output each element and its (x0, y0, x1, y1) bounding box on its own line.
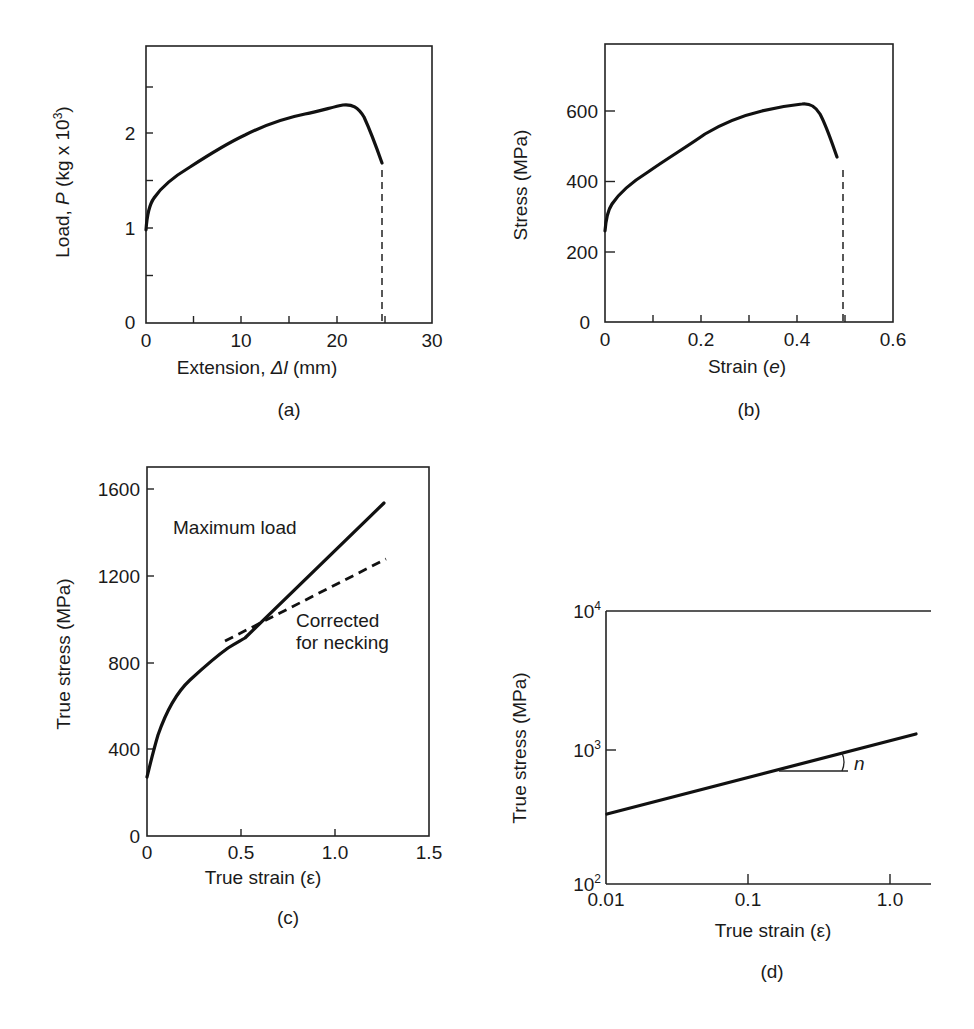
y-axis-label-a: Load, P (kg x 103) (51, 106, 73, 257)
panel-label-c: (c) (277, 907, 299, 928)
y-tick-label: 103 (573, 738, 601, 761)
x-axis-label-c: True strain (ε) (205, 867, 322, 888)
y-ticks-c (147, 489, 154, 749)
x-ticks-a (194, 316, 386, 323)
y-tick-label: 1 (125, 218, 136, 239)
x-tick-label: 0 (142, 842, 153, 863)
y-tick-label: 1200 (98, 566, 140, 587)
figure: 0 1 2 0 10 20 30 Extension, Δl (mm) Load… (0, 0, 974, 1029)
x-tick-label: 0.01 (588, 889, 625, 910)
x-tick-label: 10 (230, 330, 251, 351)
x-axis-label-b: Strain (e) (708, 356, 786, 377)
y-axis-label-c: True stress (MPa) (53, 578, 74, 729)
y-tick-label: 2 (125, 123, 136, 144)
y-tick-label: 0 (129, 826, 140, 847)
slope-triangle-arc (842, 753, 844, 771)
x-tick-label: 0.6 (880, 329, 906, 350)
stress-strain-curve (605, 104, 837, 231)
load-extension-curve (146, 105, 382, 230)
panel-b: 0 200 400 600 0 0.2 0.4 0.6 Strain (e) S… (510, 44, 906, 420)
y-ticks-a (146, 87, 153, 276)
panel-a: 0 1 2 0 10 20 30 Extension, Δl (mm) Load… (51, 46, 443, 420)
x-tick-label: 30 (421, 330, 442, 351)
annotation-maximum-load: Maximum load (173, 517, 297, 538)
y-tick-label: 1600 (98, 479, 140, 500)
x-ticks-c (241, 829, 335, 836)
y-axis-label-b: Stress (MPa) (510, 130, 531, 241)
annotation-corrected: Corrected (296, 610, 379, 631)
x-axis-label-d: True strain (ε) (715, 920, 832, 941)
panel-d: 102 103 104 0.01 0.1 1.0 n True strain (… (509, 599, 931, 982)
y-tick-label: 400 (108, 739, 140, 760)
y-axis-label-d: True stress (MPa) (509, 672, 530, 823)
y-tick-label: 800 (108, 653, 140, 674)
y-tick-label: 600 (566, 101, 598, 122)
panel-label-a: (a) (277, 399, 300, 420)
panel-c: 0 400 800 1200 1600 0 0.5 1.0 1.5 Maximu… (53, 467, 442, 928)
x-tick-label: 0.4 (784, 329, 811, 350)
x-tick-label: 0 (600, 329, 611, 350)
x-tick-label: 0.2 (688, 329, 714, 350)
x-tick-label: 1.0 (877, 889, 903, 910)
annotation-n: n (854, 753, 865, 774)
x-tick-label: 20 (326, 330, 347, 351)
x-tick-label: 0 (141, 330, 152, 351)
x-axis-label-a: Extension, Δl (mm) (177, 357, 338, 378)
x-tick-label: 1.5 (416, 842, 442, 863)
x-tick-label: 0.5 (228, 842, 254, 863)
x-tick-label: 1.0 (322, 842, 348, 863)
x-ticks-b (653, 315, 845, 322)
x-tick-label: 0.1 (735, 889, 761, 910)
y-tick-label: 0 (125, 312, 136, 333)
panel-label-b: (b) (737, 399, 760, 420)
y-tick-label: 400 (566, 171, 598, 192)
plot-frame-a (146, 46, 432, 323)
annotation-for-necking: for necking (296, 632, 389, 653)
panel-label-d: (d) (760, 961, 783, 982)
plot-frame-b (605, 44, 893, 322)
y-tick-label: 0 (579, 312, 590, 333)
y-tick-label: 104 (573, 599, 601, 622)
log-log-stress-strain-line (607, 734, 916, 814)
y-tick-label: 200 (566, 242, 598, 263)
